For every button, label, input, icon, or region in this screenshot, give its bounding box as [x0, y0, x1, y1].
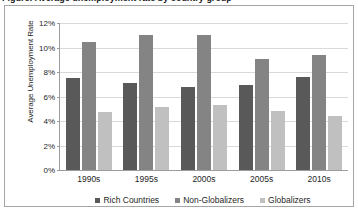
bar-group: 2005s [233, 23, 291, 170]
y-axis-tick-label: 10% [39, 43, 55, 52]
y-axis-tick-label: 0% [43, 166, 55, 175]
bar[interactable] [239, 85, 253, 170]
bar[interactable] [139, 35, 153, 170]
y-axis-tick-label: 8% [43, 68, 55, 77]
bar[interactable] [66, 78, 80, 170]
plot-area: 0%2%4%6%8%10%12% 1990s1995s2000s2005s201… [59, 23, 348, 171]
bar[interactable] [123, 83, 137, 170]
chart-area: Average Unemployment Rate 0%2%4%6%8%10%1… [14, 15, 354, 211]
bar[interactable] [197, 35, 211, 170]
x-axis-tick-label: 1990s [60, 174, 118, 184]
y-axis-tick-label: 2% [43, 141, 55, 150]
x-axis-tick-label: 2005s [233, 174, 291, 184]
y-axis-tick-label: 12% [39, 19, 55, 28]
y-axis-label: Average Unemployment Rate [26, 12, 35, 132]
y-axis-tick-label: 4% [43, 117, 55, 126]
x-axis-tick-label: 1995s [118, 174, 176, 184]
bar[interactable] [82, 42, 96, 170]
legend-item[interactable]: Rich Countries [95, 195, 159, 205]
cut-off-title: Figure: Average unemployment rate by cou… [0, 0, 358, 4]
bar[interactable] [213, 105, 227, 170]
bar[interactable] [312, 55, 326, 170]
chart-frame: Average Unemployment Rate 0%2%4%6%8%10%1… [4, 5, 354, 207]
bar[interactable] [255, 59, 269, 170]
x-axis-tick-label: 2000s [175, 174, 233, 184]
bar[interactable] [98, 112, 112, 170]
y-axis-tick [57, 170, 60, 171]
legend-item[interactable]: Non-Globalizers [175, 195, 244, 205]
bar-group: 1990s [60, 23, 118, 170]
bar-group: 2000s [175, 23, 233, 170]
chart-legend: Rich CountriesNon-GlobalizersGlobalizers [59, 195, 347, 205]
chart-screenshot: Figure: Average unemployment rate by cou… [0, 0, 358, 218]
legend-label: Non-Globalizers [183, 195, 244, 205]
x-axis-tick-label: 2010s [290, 174, 348, 184]
bar[interactable] [296, 77, 310, 170]
legend-swatch-icon [175, 198, 180, 203]
legend-swatch-icon [95, 198, 100, 203]
legend-swatch-icon [260, 198, 265, 203]
legend-label: Rich Countries [103, 195, 159, 205]
bar[interactable] [271, 111, 285, 170]
bar-groups: 1990s1995s2000s2005s2010s [60, 23, 348, 170]
y-axis-tick-label: 6% [43, 92, 55, 101]
bar[interactable] [181, 87, 195, 170]
bar[interactable] [155, 107, 169, 170]
bar-group: 2010s [290, 23, 348, 170]
bar[interactable] [328, 116, 342, 171]
bar-group: 1995s [118, 23, 176, 170]
legend-item[interactable]: Globalizers [260, 195, 311, 205]
legend-label: Globalizers [268, 195, 311, 205]
